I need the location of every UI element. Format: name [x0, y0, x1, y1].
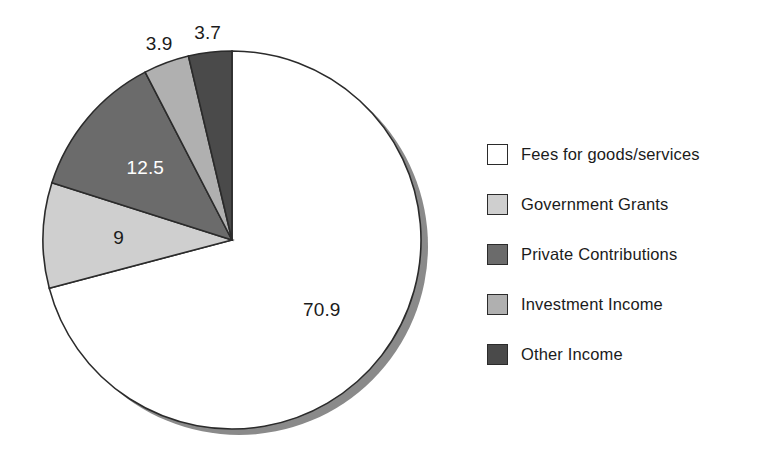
chart-canvas: 70.9912.53.93.7 Fees for goods/servicesG… [0, 0, 769, 458]
pie-slice-label: 12.5 [127, 157, 164, 176]
legend-item[interactable]: Investment Income [487, 279, 757, 329]
legend-item-label: Other Income [521, 345, 623, 364]
legend-item[interactable]: Other Income [487, 329, 757, 379]
legend-item-label: Private Contributions [521, 245, 677, 264]
legend-item-label: Fees for goods/services [521, 145, 700, 164]
legend-item-label: Investment Income [521, 295, 663, 314]
pie-slice-label: 3.7 [194, 22, 221, 41]
legend-item[interactable]: Fees for goods/services [487, 129, 757, 179]
pie-chart: 70.9912.53.93.7 [0, 0, 470, 458]
pie-svg [0, 0, 470, 458]
chart-legend: Fees for goods/servicesGovernment Grants… [487, 129, 757, 379]
pie-slice-label: 70.9 [303, 300, 340, 319]
legend-swatch-icon [487, 194, 508, 215]
legend-swatch-icon [487, 144, 508, 165]
legend-swatch-icon [487, 294, 508, 315]
legend-swatch-icon [487, 344, 508, 365]
legend-item[interactable]: Government Grants [487, 179, 757, 229]
legend-item-label: Government Grants [521, 195, 668, 214]
legend-item[interactable]: Private Contributions [487, 229, 757, 279]
legend-swatch-icon [487, 244, 508, 265]
pie-slices [43, 51, 421, 429]
pie-slice-label: 9 [113, 228, 124, 247]
pie-slice-label: 3.9 [146, 34, 173, 53]
